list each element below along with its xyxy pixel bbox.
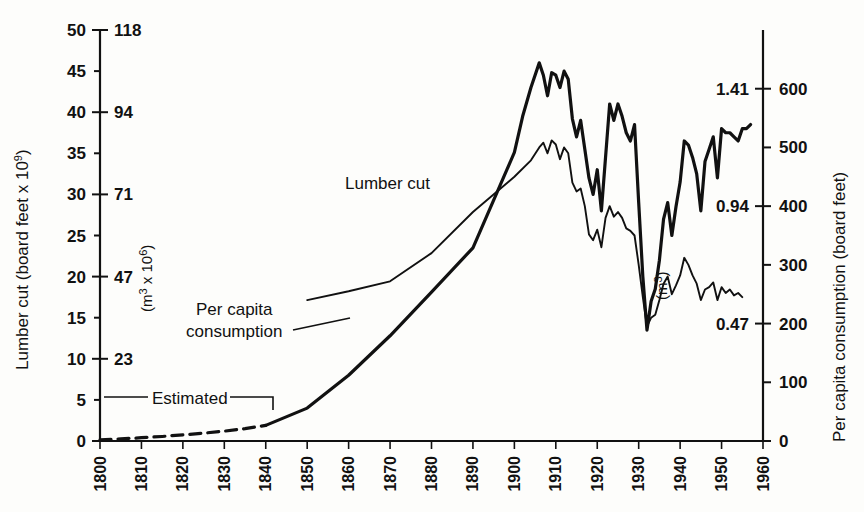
lumber-cut-label: Lumber cut — [345, 174, 430, 193]
chart-figure: 05101520253035404550 23477194118 0100200… — [0, 0, 864, 512]
left-metric-tick-label: 71 — [114, 185, 133, 204]
x-tick-label-group: 1940 — [672, 456, 689, 492]
x-tick-label: 1960 — [755, 456, 772, 492]
x-tick-label: 1850 — [299, 456, 316, 492]
x-tick-label: 1870 — [382, 456, 399, 492]
left-tick-label: 5 — [77, 391, 86, 410]
x-tick-label: 1900 — [506, 456, 523, 492]
x-tick-label: 1840 — [257, 456, 274, 492]
svg-text:(m3 x 106): (m3 x 106) — [137, 245, 155, 312]
right-axis-title-text: Per capita consumption (board feet) — [830, 172, 849, 442]
left-metric-unit-open: (m — [138, 295, 155, 313]
left-metric-tick-label: 94 — [114, 103, 133, 122]
per-capita-label-line1: Per capita — [196, 300, 273, 319]
right-metric-unit-close: ) — [653, 271, 670, 276]
right-metric-tick-label: 0.47 — [716, 315, 749, 334]
left-metric-axis-ticks: 23477194118 — [100, 21, 141, 369]
per-capita-leader — [293, 318, 350, 330]
left-axis-ticks: 05101520253035404550 — [67, 21, 100, 451]
left-axis-title-close: ) — [13, 149, 32, 155]
left-tick-label: 15 — [67, 309, 86, 328]
x-tick-label-group: 1800 — [92, 456, 109, 492]
per-capita-label-line2: consumption — [186, 322, 282, 341]
left-metric-unit-label: (m3 x 106) — [137, 245, 155, 312]
right-tick-label: 0 — [779, 432, 788, 451]
right-metric-unit-open: (m — [653, 283, 670, 301]
right-axis-ticks: 0100200300400500600 — [763, 80, 807, 451]
svg-text:(m3): (m3) — [652, 271, 670, 300]
left-tick-label: 45 — [67, 62, 86, 81]
x-tick-label-group: 1890 — [464, 456, 481, 492]
left-tick-label: 10 — [67, 350, 86, 369]
x-tick-label: 1880 — [423, 456, 440, 492]
x-tick-label-group: 1920 — [589, 456, 606, 492]
x-tick-label: 1860 — [340, 456, 357, 492]
right-tick-label: 600 — [779, 80, 807, 99]
x-tick-label-group: 1960 — [755, 456, 772, 492]
x-tick-label-group: 1880 — [423, 456, 440, 492]
x-tick-label-group: 1840 — [257, 456, 274, 492]
left-metric-unit-close: ) — [138, 245, 155, 250]
right-tick-label: 300 — [779, 256, 807, 275]
right-tick-label: 100 — [779, 373, 807, 392]
left-axis-title-text: Lumber cut (board feet x 10 — [13, 161, 32, 370]
x-axis-ticks: 1800181018201830184018501860187018801890… — [92, 441, 772, 492]
left-tick-label: 25 — [67, 227, 86, 246]
estimated-label: Estimated — [152, 389, 228, 408]
x-tick-label: 1800 — [92, 456, 109, 492]
right-metric-tick-label: 0.94 — [716, 197, 750, 216]
x-tick-label: 1950 — [713, 456, 730, 492]
right-tick-label: 400 — [779, 197, 807, 216]
x-tick-label: 1830 — [216, 456, 233, 492]
left-metric-tick-label: 47 — [114, 268, 133, 287]
x-tick-label: 1910 — [547, 456, 564, 492]
x-tick-label-group: 1910 — [547, 456, 564, 492]
right-tick-label: 200 — [779, 315, 807, 334]
x-tick-label-group: 1860 — [340, 456, 357, 492]
left-tick-label: 0 — [77, 432, 86, 451]
series-per-capita-consumption — [307, 140, 742, 326]
left-tick-label: 35 — [67, 144, 86, 163]
x-tick-label-group: 1900 — [506, 456, 523, 492]
left-metric-tick-label: 118 — [114, 21, 141, 40]
lumber-cut-and-per-capita-consumption-chart: 05101520253035404550 23477194118 0100200… — [0, 0, 864, 512]
left-metric-tick-label: 23 — [114, 350, 133, 369]
x-tick-label: 1890 — [464, 456, 481, 492]
x-tick-label-group: 1870 — [382, 456, 399, 492]
right-axis-title: Per capita consumption (board feet) — [830, 172, 849, 442]
x-tick-label: 1820 — [174, 456, 191, 492]
series-lumber-cut — [266, 63, 751, 426]
left-metric-unit-mid: x 10 — [138, 256, 155, 289]
x-tick-label-group: 1850 — [299, 456, 316, 492]
x-tick-label-group: 1930 — [630, 456, 647, 492]
svg-text:Lumber cut (board feet x 109): Lumber cut (board feet x 109) — [12, 149, 32, 370]
left-tick-label: 30 — [67, 185, 86, 204]
series-lumber-cut-estimated — [100, 425, 266, 439]
right-tick-label: 500 — [779, 138, 807, 157]
x-tick-label: 1920 — [589, 456, 606, 492]
right-metric-unit-label: (m3) — [652, 271, 670, 300]
estimated-leader-right — [230, 397, 273, 410]
x-tick-label: 1930 — [630, 456, 647, 492]
x-tick-label-group: 1820 — [174, 456, 191, 492]
x-tick-label-group: 1950 — [713, 456, 730, 492]
x-tick-label: 1810 — [133, 456, 150, 492]
left-tick-label: 40 — [67, 103, 86, 122]
right-metric-tick-label: 1.41 — [716, 80, 749, 99]
left-tick-label: 50 — [67, 21, 86, 40]
x-tick-label-group: 1830 — [216, 456, 233, 492]
x-tick-label-group: 1810 — [133, 456, 150, 492]
left-tick-label: 20 — [67, 268, 86, 287]
x-tick-label: 1940 — [672, 456, 689, 492]
left-axis-title: Lumber cut (board feet x 109) — [12, 149, 32, 370]
